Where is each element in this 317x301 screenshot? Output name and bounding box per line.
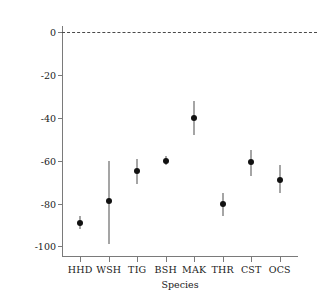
y-axis-title: Estimated change in abundance (0, 0, 20, 20)
x-axis-tick (166, 257, 167, 262)
y-axis-title-text: Estimated change in abundance (0, 0, 20, 20)
x-axis-tick (109, 257, 110, 262)
data-point (106, 198, 112, 204)
x-axis-tick-label: THR (212, 264, 234, 275)
x-axis-title: Species (62, 279, 298, 290)
y-axis-tick-label: -80 (41, 198, 56, 209)
y-axis-tick-label: -20 (41, 70, 56, 81)
x-axis-tick-label: HHD (68, 264, 93, 275)
x-axis-tick-label: WSH (96, 264, 121, 275)
data-point (77, 220, 83, 226)
data-point (163, 158, 169, 164)
y-axis-tick (58, 161, 63, 162)
x-axis-tick-label: MAK (182, 264, 206, 275)
y-axis-line (62, 26, 63, 257)
x-axis-tick-label: TIG (128, 264, 146, 275)
y-axis-tick-label: -40 (41, 112, 56, 123)
plot-area: 0-20-40-60-80-100 HHDWSHTIGBSHMAKTHRCSTO… (62, 26, 298, 257)
data-point (191, 115, 197, 121)
y-axis-tick-label: -100 (35, 241, 56, 252)
data-point (248, 159, 254, 165)
x-axis-tick-label: CST (241, 264, 262, 275)
y-axis-tick (58, 246, 63, 247)
chart-figure: Estimated change in abundance 0-20-40-60… (0, 0, 317, 301)
y-axis-tick-label: 0 (50, 27, 56, 38)
data-point (220, 201, 226, 207)
data-point (134, 168, 140, 174)
y-axis-tick (58, 118, 63, 119)
x-axis-tick (137, 257, 138, 262)
y-axis-tick (58, 75, 63, 76)
x-axis-line (62, 256, 298, 257)
x-axis-tick (251, 257, 252, 262)
x-axis-tick (223, 257, 224, 262)
x-axis-tick (194, 257, 195, 262)
data-point (277, 177, 283, 183)
x-axis-tick (280, 257, 281, 262)
x-axis-tick (80, 257, 81, 262)
zero-reference-line (62, 32, 317, 33)
x-axis-tick-label: OCS (269, 264, 291, 275)
y-axis-tick-label: -60 (41, 155, 56, 166)
x-axis-tick-label: BSH (155, 264, 177, 275)
y-axis-tick (58, 204, 63, 205)
